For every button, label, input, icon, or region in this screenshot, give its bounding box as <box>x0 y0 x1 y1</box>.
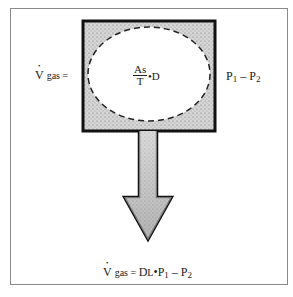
p1-symbol: P <box>226 69 233 83</box>
minus-sign: – <box>237 69 249 83</box>
gas-equals-text: gas = <box>115 267 139 278</box>
diagram-graphic <box>0 0 293 297</box>
right-pressure-label: P1 – P2 <box>226 70 260 84</box>
factor-d: D <box>152 70 160 82</box>
diffusion-factor: •D <box>148 70 160 82</box>
minus-sign: – <box>169 265 181 279</box>
p2-symbol: P <box>181 265 188 279</box>
p2-subscript: 2 <box>256 74 261 84</box>
v-dot-symbol: V <box>103 266 112 278</box>
gas-equals-text: gas = <box>47 70 68 81</box>
flow-arrow <box>124 131 172 240</box>
bottom-equation-label: V gas = DL•P1 – P2 <box>103 266 192 280</box>
area-over-thickness-fraction: As T <box>133 64 147 87</box>
p2-symbol: P <box>249 69 256 83</box>
p2-subscript: 2 <box>188 270 193 280</box>
fraction-denominator: T <box>133 76 147 87</box>
left-equation-label: V gas = <box>35 69 68 81</box>
v-dot-symbol: V <box>35 69 44 81</box>
